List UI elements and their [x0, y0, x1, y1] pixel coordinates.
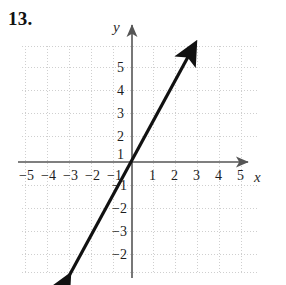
y-tick-label-1: 1 — [117, 147, 124, 162]
axes — [18, 25, 248, 278]
y-tick-label-2: 2 — [117, 129, 124, 144]
y-tick-label-3: 3 — [117, 106, 124, 121]
coordinate-plane-figure: y x −5 −4 −3 −2 −1 1 2 3 4 5 5 4 3 2 1 −… — [0, 0, 286, 285]
y-tick-label-4: 4 — [117, 83, 124, 98]
x-tick-label-neg4: −4 — [41, 168, 56, 183]
y-tick-label-neg4: −2 — [112, 247, 127, 262]
x-tick-label-2: 2 — [171, 168, 178, 183]
x-tick-label-neg5: −5 — [19, 168, 34, 183]
y-tick-label-5: 5 — [117, 60, 124, 75]
x-tick-label-1: 1 — [149, 168, 156, 183]
x-axis-label: x — [253, 169, 261, 185]
y-tick-label-neg3: −3 — [112, 224, 127, 239]
y-axis-label: y — [111, 19, 120, 35]
x-tick-label-5: 5 — [237, 168, 244, 183]
grid-lines — [22, 46, 258, 272]
x-tick-label-neg3: −3 — [63, 168, 78, 183]
y-tick-label-neg1: −1 — [112, 178, 127, 193]
y-tick-label-neg2: −2 — [112, 201, 127, 216]
x-tick-label-4: 4 — [215, 168, 222, 183]
x-tick-label-3: 3 — [193, 168, 200, 183]
graph-svg: y x −5 −4 −3 −2 −1 1 2 3 4 5 5 4 3 2 1 −… — [0, 0, 286, 285]
x-tick-label-neg2: −2 — [85, 168, 100, 183]
